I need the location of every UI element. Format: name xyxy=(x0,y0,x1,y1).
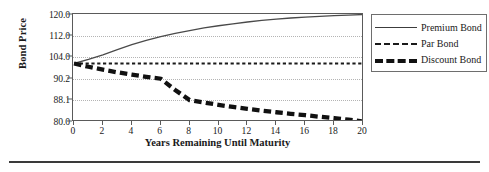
x-axis-tick-label: 6 xyxy=(157,125,162,136)
chart-legend: Premium BondPar BondDiscount Bond xyxy=(371,14,487,72)
series-line-discount-bond xyxy=(74,64,363,122)
legend-line-swatch-icon xyxy=(375,54,417,64)
x-axis-title: Years Remaining Until Maturity xyxy=(72,137,363,148)
x-axis-tick-label: 10 xyxy=(213,125,223,136)
x-axis-tick-label: 12 xyxy=(242,125,252,136)
x-axis-tick-label: 18 xyxy=(328,125,338,136)
plot-area xyxy=(72,13,363,121)
x-axis-tick-label: 4 xyxy=(128,125,133,136)
bond-price-chart-figure: Bond Price 120.0112.0104.090.288.180.0 0… xyxy=(0,0,489,172)
legend-line-swatch-icon xyxy=(375,22,417,32)
legend-line-swatch-icon xyxy=(375,38,417,48)
x-axis-tick-label: 0 xyxy=(71,125,76,136)
legend-item: Discount Bond xyxy=(375,51,482,67)
legend-item-label: Premium Bond xyxy=(421,22,482,33)
x-axis-tick-labels: 02468101214161820 xyxy=(72,121,363,137)
series-line-premium-bond xyxy=(74,15,363,64)
legend-item-label: Discount Bond xyxy=(421,54,481,65)
bottom-divider xyxy=(9,161,480,163)
x-axis-tick-label: 20 xyxy=(357,125,367,136)
legend-item: Premium Bond xyxy=(375,19,482,35)
y-axis-tick-labels: 120.0112.0104.090.288.180.0 xyxy=(34,13,70,121)
chart-series-layer xyxy=(73,14,363,121)
legend-item-label: Par Bond xyxy=(421,38,459,49)
x-axis-tick-label: 2 xyxy=(99,125,104,136)
x-axis-tick-label: 8 xyxy=(186,125,191,136)
x-axis-tick-label: 14 xyxy=(271,125,281,136)
legend-item: Par Bond xyxy=(375,35,482,51)
x-axis-tick-label: 16 xyxy=(299,125,309,136)
y-axis-title: Bond Price xyxy=(17,0,28,88)
